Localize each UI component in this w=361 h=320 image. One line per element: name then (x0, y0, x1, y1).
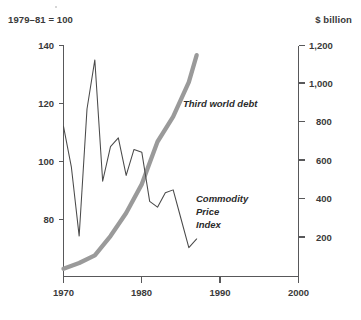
xtick-label-1980: 1980 (131, 287, 152, 298)
series-commodity-price-index (64, 60, 197, 248)
xtick-label-2000: 2000 (288, 287, 309, 298)
ytick-label-left-120: 120 (38, 98, 54, 109)
label-commodity-price-index-line3: Index (196, 219, 222, 230)
ytick-label-right-800: 800 (316, 116, 332, 127)
ytick-label-right-1000: 1,000 (309, 78, 333, 89)
xtick-label-1970: 1970 (53, 287, 74, 298)
label-commodity-price-index-line1: Commodity (196, 193, 249, 204)
ytick-label-left-80: 80 (43, 214, 54, 225)
ytick-label-right-200: 200 (316, 232, 332, 243)
chart-figure: 1979–81 = 100 $ billion 140 120 100 80 1… (0, 0, 361, 320)
ytick-label-left-100: 100 (38, 156, 54, 167)
label-third-world-debt: Third world debt (183, 98, 258, 109)
xtick-label-1990: 1990 (209, 287, 230, 298)
ytick-label-right-1200: 1,200 (309, 40, 333, 51)
label-commodity-price-index-line2: Price (196, 206, 220, 217)
chart-plot: 140 120 100 80 1,200 1,000 800 600 400 2… (0, 0, 361, 320)
ytick-label-left-140: 140 (38, 40, 54, 51)
ytick-label-right-400: 400 (316, 193, 332, 204)
ytick-label-right-600: 600 (316, 155, 332, 166)
